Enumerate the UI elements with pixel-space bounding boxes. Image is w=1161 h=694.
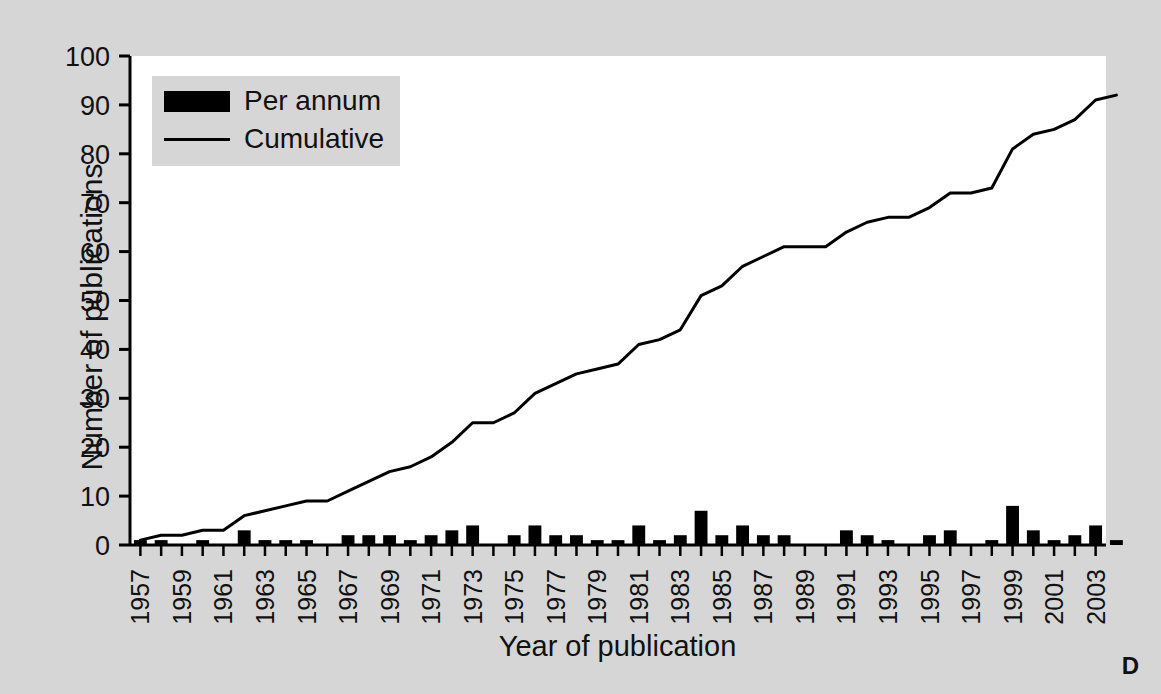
x-tick-label-1961: 1961 xyxy=(209,569,237,625)
bar-1976 xyxy=(529,525,542,545)
y-tick-label-100: 100 xyxy=(65,42,110,72)
x-tick-label-1985: 1985 xyxy=(708,569,736,625)
chart-legend: Per annum Cumulative xyxy=(152,76,400,166)
x-tick-label-1975: 1975 xyxy=(500,569,528,625)
x-tick-label-1999: 1999 xyxy=(999,569,1027,625)
x-tick-label-1983: 1983 xyxy=(666,569,694,625)
x-tick-label-1963: 1963 xyxy=(251,569,279,625)
x-tick-label-1989: 1989 xyxy=(791,569,819,625)
x-tick-label-2003: 2003 xyxy=(1082,569,1110,625)
bar-1986 xyxy=(736,525,749,545)
bar-undefined xyxy=(1110,540,1123,545)
x-tick-label-1993: 1993 xyxy=(874,569,902,625)
x-tick-label-1965: 1965 xyxy=(293,569,321,625)
x-tick-label-1987: 1987 xyxy=(749,569,777,625)
bar-2000 xyxy=(1027,530,1040,545)
legend-line-swatch-icon xyxy=(164,138,230,141)
bar-1984 xyxy=(695,511,708,545)
publications-chart-figure: 0102030405060708090100195719591961196319… xyxy=(0,0,1161,694)
x-tick-label-2001: 2001 xyxy=(1040,569,1068,625)
bar-1972 xyxy=(445,530,458,545)
bar-1973 xyxy=(466,525,479,545)
y-axis-title: Number of publications xyxy=(75,107,109,527)
panel-label: D xyxy=(1122,652,1139,680)
x-tick-label-1973: 1973 xyxy=(459,569,487,625)
legend-item-cumulative: Cumulative xyxy=(164,120,384,158)
x-tick-label-1967: 1967 xyxy=(334,569,362,625)
x-tick-label-1997: 1997 xyxy=(957,569,985,625)
legend-label-per-annum: Per annum xyxy=(244,85,381,117)
y-tick-label-0: 0 xyxy=(95,531,110,561)
x-axis-title: Year of publication xyxy=(130,630,1105,663)
x-tick-label-1991: 1991 xyxy=(832,569,860,625)
bar-1962 xyxy=(238,530,251,545)
x-tick-label-1959: 1959 xyxy=(168,569,196,625)
bar-1999 xyxy=(1006,506,1019,545)
legend-item-per-annum: Per annum xyxy=(164,82,384,120)
bar-2003 xyxy=(1089,525,1102,545)
x-tick-label-1979: 1979 xyxy=(583,569,611,625)
x-tick-label-1969: 1969 xyxy=(376,569,404,625)
x-tick-label-1977: 1977 xyxy=(542,569,570,625)
x-tick-label-1981: 1981 xyxy=(625,569,653,625)
bar-1991 xyxy=(840,530,853,545)
x-tick-label-1971: 1971 xyxy=(417,569,445,625)
bar-1981 xyxy=(632,525,645,545)
bar-1996 xyxy=(944,530,957,545)
legend-label-cumulative: Cumulative xyxy=(244,123,384,155)
legend-bar-swatch-icon xyxy=(164,91,230,112)
x-tick-label-1995: 1995 xyxy=(916,569,944,625)
x-tick-label-1957: 1957 xyxy=(126,569,154,625)
